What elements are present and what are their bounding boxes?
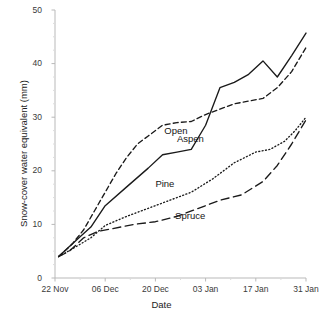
series-line-aspen	[59, 33, 306, 257]
x-tick-label: 03 Jan	[181, 284, 231, 294]
y-tick-label: 50	[14, 5, 42, 15]
x-tick-label: 22 Nov	[30, 284, 80, 294]
x-axis-title: Date	[0, 299, 323, 310]
y-axis-title: Snow-cover water equivalent (mm)	[18, 69, 29, 239]
x-tick-label: 20 Dec	[130, 284, 180, 294]
snow-cover-line-chart: 01020304050 22 Nov06 Dec20 Dec03 Jan17 J…	[0, 0, 323, 314]
series-label-spruce: Spruce	[175, 210, 205, 221]
x-tick-label: 06 Dec	[80, 284, 130, 294]
series-paths	[59, 33, 306, 257]
x-tick-label: 31 Jan	[281, 284, 323, 294]
series-line-open	[59, 48, 306, 257]
series-label-pine: Pine	[155, 178, 174, 189]
tick-marks	[52, 10, 307, 282]
plot-canvas	[0, 0, 323, 314]
y-tick-label: 40	[14, 58, 42, 68]
y-tick-label: 0	[14, 273, 42, 283]
x-tick-label: 17 Jan	[231, 284, 281, 294]
series-label-aspen: Aspen	[177, 133, 204, 144]
axis-lines	[55, 10, 306, 278]
